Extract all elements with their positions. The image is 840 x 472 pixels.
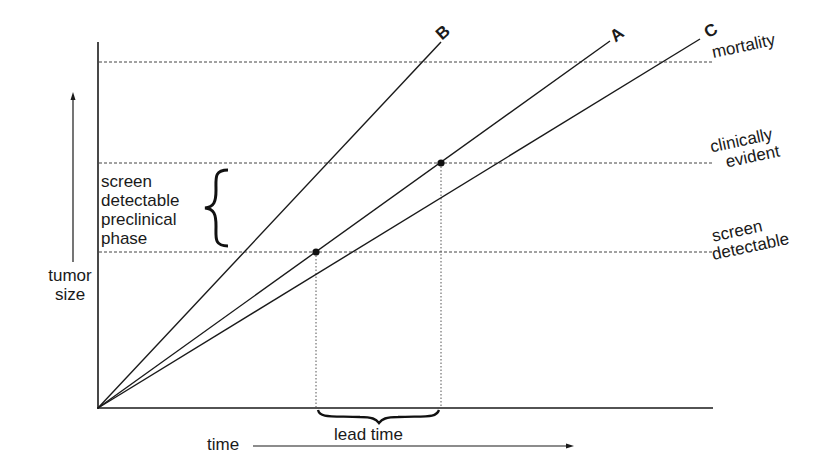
tumor-size-label: tumor size: [40, 266, 100, 304]
phase-label-line-1: screen: [101, 172, 179, 191]
tumor-label-line: tumor: [40, 266, 100, 285]
lead-time-label: lead time: [334, 426, 403, 444]
screen-detectable-point: [312, 248, 319, 255]
size-label-line: size: [40, 285, 100, 304]
clinically-evident-point: [437, 159, 444, 166]
phase-brace-icon: [205, 170, 228, 246]
phase-label-line-4: phase: [101, 229, 179, 248]
lead-time-brace-icon: [318, 410, 439, 423]
preclinical-phase-label: screen detectable preclinical phase: [101, 172, 179, 248]
phase-label-line-2: detectable: [101, 191, 179, 210]
growth-line-c: [98, 39, 700, 408]
tumor-size-arrowhead-icon: [71, 92, 76, 100]
time-arrowhead-icon: [566, 444, 574, 449]
phase-label-line-3: preclinical: [101, 210, 179, 229]
time-label: time: [207, 436, 239, 454]
